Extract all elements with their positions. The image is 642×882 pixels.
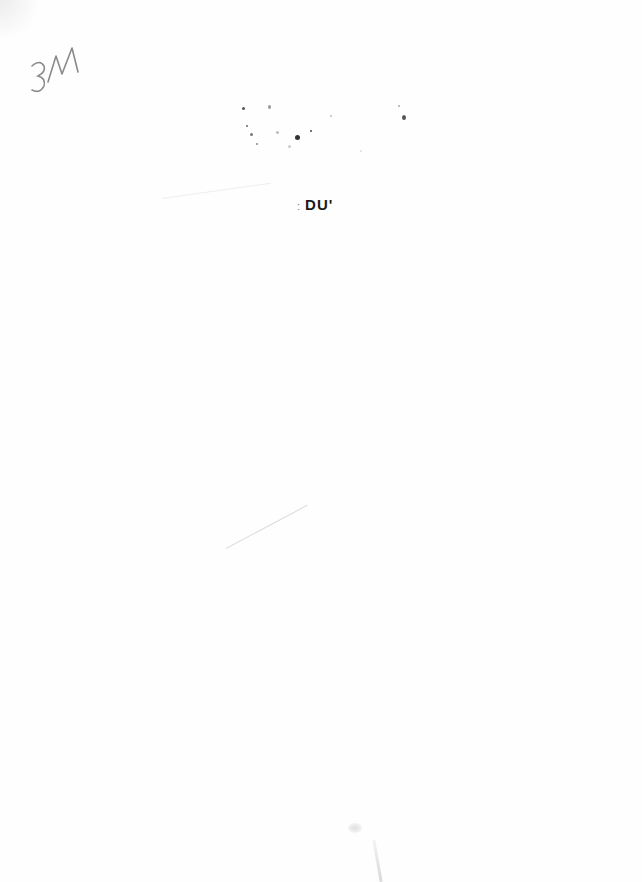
bottom-pencil-mark [372,840,382,882]
handwritten-note: 3M [22,26,82,96]
text-fragment: :DU' [297,196,333,213]
faint-pencil-stroke [162,183,271,199]
scanned-page: 3M :DU' [0,0,642,882]
fragment-text: DU' [305,196,333,213]
fragment-prefix: : [297,200,301,212]
scan-noise-speckles [240,95,420,160]
stray-pencil-line [226,505,308,549]
bottom-smudge [348,823,362,833]
